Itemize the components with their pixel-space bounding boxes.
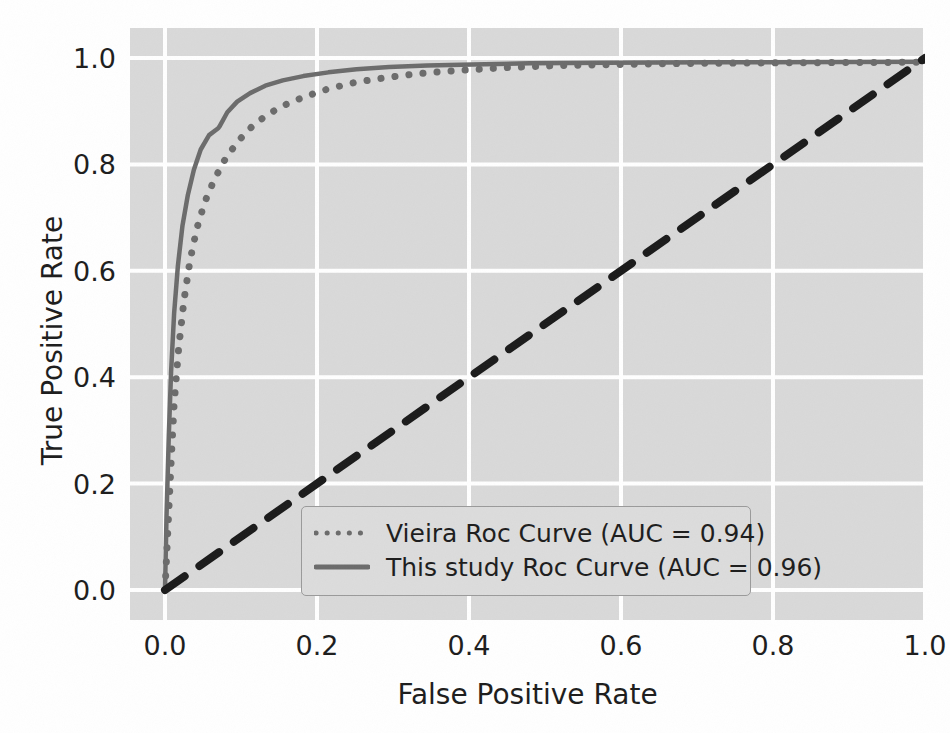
x-tick-label: 0.4 [448, 630, 491, 661]
y-tick-label: 1.0 [73, 43, 116, 74]
legend-label: This study Roc Curve (AUC = 0.96) [386, 553, 822, 582]
x-tick-label: 0.6 [600, 630, 643, 661]
roc-curve-figure: 0.00.20.40.60.81.0 0.00.20.40.60.81.0 Fa… [0, 0, 950, 733]
legend-item[interactable]: Vieira Roc Curve (AUC = 0.94) [314, 516, 736, 550]
y-tick-label: 0.8 [73, 149, 116, 180]
x-tick-label: 0.0 [144, 630, 187, 661]
y-tick-label: 0.6 [73, 255, 116, 286]
x-axis-title: False Positive Rate [130, 678, 925, 711]
legend-item[interactable]: This study Roc Curve (AUC = 0.96) [314, 550, 736, 584]
x-tick-label: 0.2 [296, 630, 339, 661]
legend-dotted-line-icon [314, 523, 370, 543]
legend: Vieira Roc Curve (AUC = 0.94)This study … [301, 506, 751, 596]
y-axis-title: True Positive Rate [36, 131, 69, 551]
y-tick-label: 0.4 [73, 362, 116, 393]
y-tick-label: 0.2 [73, 468, 116, 499]
x-tick-label: 0.8 [752, 630, 795, 661]
legend-solid-line-icon [314, 557, 370, 577]
y-tick-label: 0.0 [73, 575, 116, 606]
legend-label: Vieira Roc Curve (AUC = 0.94) [386, 519, 765, 548]
x-tick-label: 1.0 [904, 630, 947, 661]
